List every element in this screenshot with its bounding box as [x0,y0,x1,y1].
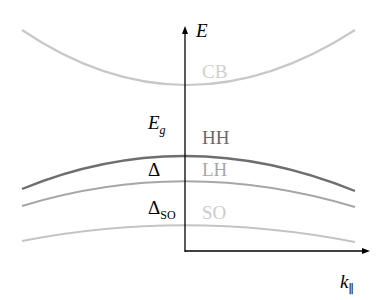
band-structure-diagram: E CB Eg HH Δ LH ΔSO SO k∥ [0,0,387,300]
delta-so-main: Δ [148,197,160,218]
k-axis-label: k∥ [340,272,354,295]
cb-band [22,30,355,85]
gap-label-main: E [148,112,160,133]
delta-so-label: ΔSO [148,198,176,221]
hh-band [22,156,355,191]
energy-axis-arrow-icon [182,26,188,34]
gap-label: Eg [148,113,166,136]
hh-label: HH [202,128,229,147]
k-axis-label-sub: ∥ [348,282,354,296]
energy-axis-label: E [196,21,208,40]
delta-so-sub: SO [160,208,175,222]
cb-label: CB [202,62,227,81]
lh-label: LH [202,160,227,179]
so-label: SO [202,203,226,222]
k-axis-arrow-icon [362,248,370,254]
diagram-graphics [0,0,387,300]
delta-label: Δ [148,160,160,179]
lh-band [22,181,355,207]
gap-label-sub: g [160,123,166,137]
so-band [22,225,355,242]
